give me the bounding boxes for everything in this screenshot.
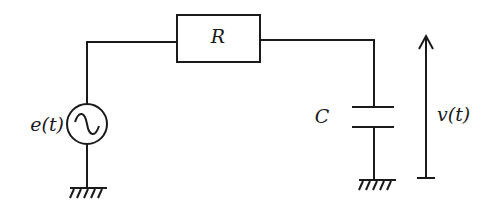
- output-voltage-label: v(t): [437, 103, 470, 125]
- resistor: R: [177, 15, 260, 62]
- ground-right-icon: [359, 180, 396, 190]
- rc-circuit-diagram: R e(t) C v(t): [0, 0, 498, 214]
- sine-wave-icon: [75, 114, 99, 134]
- wire-source-to-resistor: [87, 42, 177, 104]
- capacitor: C: [315, 105, 394, 127]
- ac-source: e(t): [30, 104, 107, 144]
- source-label: e(t): [30, 113, 64, 135]
- ground-left-icon: [70, 188, 107, 198]
- capacitor-label: C: [315, 105, 330, 127]
- resistor-label: R: [210, 25, 225, 47]
- wire-resistor-to-capacitor: [260, 40, 374, 107]
- voltage-arrow: v(t): [417, 36, 470, 178]
